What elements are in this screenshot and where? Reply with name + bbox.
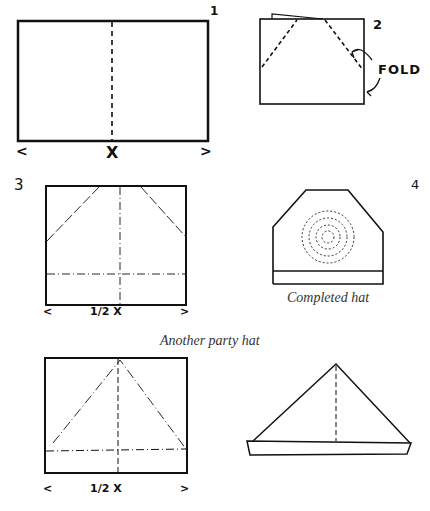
- mark-right: >: [180, 305, 189, 318]
- mark-half-x: 1/2 X: [90, 482, 122, 495]
- step-3-number: 3: [14, 176, 24, 194]
- diagram-2: [260, 14, 380, 104]
- fold-annotation: FOLD: [378, 62, 421, 77]
- step-1-number: 1: [210, 4, 218, 18]
- mark-left: <: [43, 482, 52, 495]
- mark-left: <: [16, 143, 28, 159]
- mark-left: <: [43, 305, 52, 318]
- section-title: Another party hat: [160, 333, 260, 349]
- diagram-4: [273, 190, 383, 284]
- step-2-number: 2: [373, 17, 382, 32]
- completed-hat-caption: Completed hat: [287, 290, 369, 306]
- hat-folding-diagrams: [0, 0, 430, 511]
- mark-right: >: [200, 143, 212, 159]
- mark-right: >: [180, 482, 189, 495]
- diagram-1: [18, 21, 208, 141]
- mark-half-x: 1/2 X: [90, 305, 122, 318]
- diagram-3: [46, 186, 186, 305]
- diagram-6: [247, 364, 411, 455]
- diagram-5: [45, 358, 187, 473]
- mark-center-x: X: [106, 143, 118, 162]
- step-4-number: 4: [411, 177, 419, 192]
